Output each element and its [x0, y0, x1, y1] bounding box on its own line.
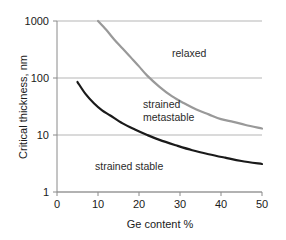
x-tick-label-30: 30	[174, 198, 186, 210]
chart-figure: 1000 100 10 1 0 10 20 30 40 50 Critical …	[0, 0, 286, 240]
y-tick-label-100: 100	[31, 72, 49, 84]
x-tick-label-10: 10	[92, 198, 104, 210]
region-label-strained-metastable-line1: strained	[143, 98, 181, 110]
region-label-strained-metastable-line2: metastable	[143, 111, 195, 123]
x-axis-title: Ge content %	[127, 218, 194, 230]
x-tick-label-50: 50	[256, 198, 268, 210]
y-tick-label-10: 10	[37, 129, 49, 141]
x-tick-label-20: 20	[133, 198, 145, 210]
critical-thickness-chart: 1000 100 10 1 0 10 20 30 40 50 Critical …	[0, 0, 286, 240]
x-tick-label-0: 0	[54, 198, 60, 210]
x-tick-label-40: 40	[215, 198, 227, 210]
y-tick-label-1000: 1000	[25, 15, 49, 27]
y-axis-title: Critical thickness, nm	[17, 55, 29, 159]
y-tick-label-1: 1	[43, 186, 49, 198]
region-label-relaxed: relaxed	[172, 47, 207, 59]
region-label-strained-stable: strained stable	[95, 160, 163, 172]
